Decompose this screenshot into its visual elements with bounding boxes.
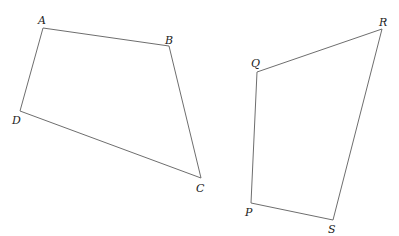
vertex-label-d: D [11,114,21,127]
vertex-label-p: P [244,206,253,219]
vertex-label-c: C [196,182,205,195]
vertex-label-b: B [164,34,173,47]
vertex-label-q: Q [251,57,260,70]
vertex-label-s: S [328,223,336,236]
vertex-label-r: R [378,16,387,29]
polygon-pqrs [251,29,382,220]
polygon-abcd [20,28,201,178]
quadrilateral-abcd: A B C D [11,14,205,195]
vertex-label-a: A [37,14,46,27]
quadrilateral-pqrs: P Q R S [244,16,387,236]
diagram-canvas: A B C D P Q R S [0,0,399,236]
